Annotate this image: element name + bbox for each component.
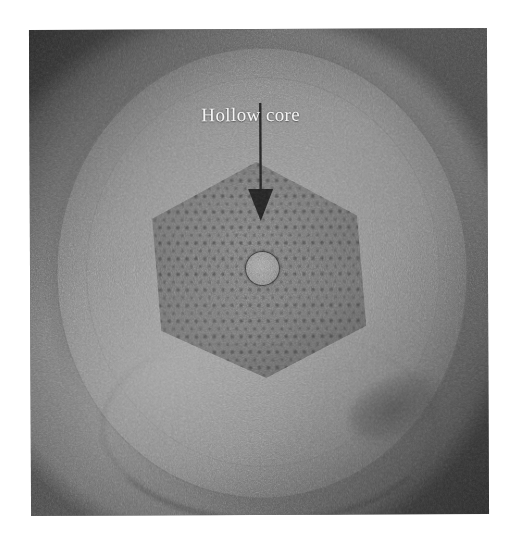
hollow-core-label: Hollow core <box>201 105 300 125</box>
figure-page: Hollow core <box>0 0 517 552</box>
cladding-bottom-edge-arc <box>100 328 437 516</box>
annotation-arrow-icon <box>239 103 284 259</box>
micrograph-photo: Hollow core <box>29 28 489 516</box>
